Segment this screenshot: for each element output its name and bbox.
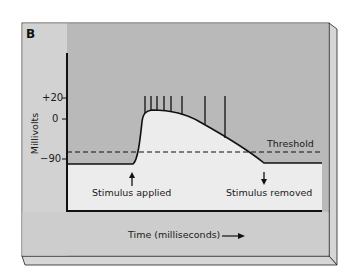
stimulus-applied-label: Stimulus applied <box>92 187 171 198</box>
y-tick-plus20: +20 <box>42 92 63 103</box>
x-axis-label: Time (milliseconds) <box>128 229 220 240</box>
threshold-label: Threshold <box>267 138 314 149</box>
panel-letter: B <box>26 27 35 41</box>
y-tick-minus90: −90 <box>40 153 61 164</box>
panel-bevel-right <box>329 23 337 265</box>
panel-bevel-bottom <box>22 256 337 265</box>
y-axis-label: Millivolts <box>29 113 40 155</box>
y-tick-0: 0 <box>52 113 58 124</box>
stimulus-removed-label: Stimulus removed <box>226 187 312 198</box>
